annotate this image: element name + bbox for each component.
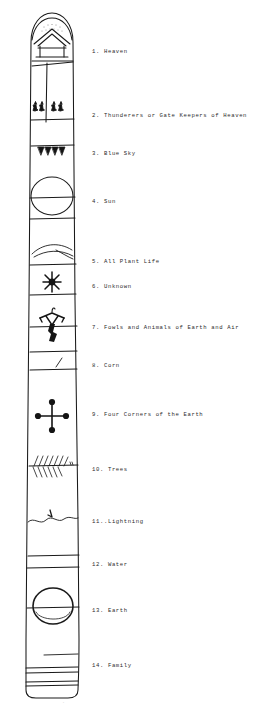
totem-pole-drawing [0, 0, 274, 708]
section-4-sun [30, 177, 75, 219]
section-11-lightning [28, 510, 78, 522]
section-14-family [26, 654, 78, 686]
section-1-heaven [32, 18, 73, 61]
section-2-thunderers [31, 62, 74, 122]
section-7-fowls-and-animals [30, 308, 77, 352]
pole-outline [26, 13, 79, 698]
section-12-water [27, 555, 79, 568]
section-3-blue-sky [31, 145, 74, 155]
section-9-four-corners [35, 399, 69, 433]
section-5-all-plant-life [30, 245, 76, 265]
section-6-unknown [30, 272, 76, 295]
section-10-trees [29, 456, 78, 477]
section-13-earth [27, 588, 79, 624]
section-8-corn [30, 358, 77, 370]
bottom-caption: . [62, 699, 66, 705]
totem-pole-figure: 1. Heaven 2. Thunderers or Gate Keepers … [0, 0, 274, 708]
